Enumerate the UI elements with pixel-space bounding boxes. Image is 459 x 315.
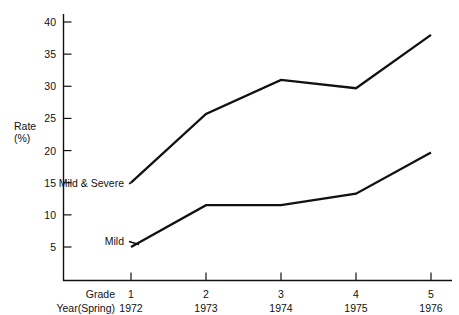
x-axis-category-label: 2	[203, 289, 209, 300]
x-axis-ticks	[131, 273, 431, 281]
x-axis-category-label: 4	[353, 289, 359, 300]
annotation-leader-lines	[129, 183, 139, 245]
series-line-2	[131, 153, 431, 248]
series-annotation-label: Mild	[0, 236, 124, 247]
line-chart: 510152025303540 Rate (%) Mild & SevereMi…	[0, 0, 459, 315]
x-axis-category-label: 3	[278, 289, 284, 300]
x-axis-row-title-1: Grade	[0, 289, 115, 300]
y-axis-title: Rate (%)	[14, 120, 36, 144]
y-axis-tick-label: 10	[24, 210, 56, 221]
y-axis-tick-label: 30	[24, 81, 56, 92]
x-axis-category-label: 1974	[269, 303, 292, 314]
x-axis-category-label: 1972	[119, 303, 142, 314]
series-line-1	[131, 35, 431, 183]
x-axis-category-label: 1	[128, 289, 134, 300]
x-axis-row-title-2: Year(Spring)	[0, 303, 115, 314]
y-axis-title-line-1: Rate	[14, 120, 36, 132]
chart-series-lines	[131, 35, 431, 247]
x-axis-category-label: 1973	[194, 303, 217, 314]
annotation-leader-line	[129, 183, 131, 184]
y-axis-tick-label: 40	[24, 17, 56, 28]
y-axis-tick-label: 35	[24, 49, 56, 60]
y-axis-title-line-2: (%)	[14, 132, 36, 144]
y-axis-tick-label: 20	[24, 146, 56, 157]
chart-plot-area	[0, 0, 459, 315]
x-axis-category-label: 1976	[419, 303, 442, 314]
x-axis-category-label: 1975	[344, 303, 367, 314]
series-annotation-label: Mild & Severe	[0, 178, 124, 189]
y-axis-ticks	[64, 22, 72, 247]
x-axis-category-label: 5	[428, 289, 434, 300]
